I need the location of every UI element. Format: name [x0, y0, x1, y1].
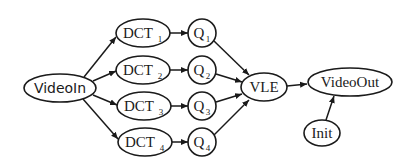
node-videoout: VideoOut [308, 68, 392, 96]
node-label: DCT [123, 25, 153, 41]
edge-init-videoout [326, 96, 334, 120]
node-label: DCT [125, 134, 155, 150]
node-subscript: 4 [160, 143, 165, 153]
node-label: Q [194, 25, 205, 41]
edge-q1-vle [214, 41, 249, 75]
edges [83, 33, 334, 142]
node-subscript: 2 [206, 71, 211, 81]
node-dct1: DCT 1 [116, 19, 170, 47]
edge-q4-vle [214, 100, 249, 135]
node-q2: Q 2 [188, 56, 216, 84]
node-label: VLE [249, 79, 278, 95]
node-subscript: 1 [206, 34, 211, 44]
node-subscript: 3 [206, 107, 211, 117]
node-subscript: 4 [206, 143, 211, 153]
node-dct4: DCT 4 [118, 128, 172, 156]
node-label: Q [194, 98, 205, 114]
edge-videoin-dct4 [83, 99, 118, 139]
node-subscript: 1 [158, 34, 163, 44]
diagram-canvas: VideoIn DCT 1 DCT 2 DCT 3 DCT 4 Q 1 Q 2 … [0, 0, 416, 165]
node-init: Init [304, 120, 340, 146]
edge-videoin-dct2 [93, 71, 116, 81]
node-label: VideoIn [34, 80, 86, 96]
edge-vle-videoout [287, 84, 307, 86]
edge-q3-vle [216, 94, 242, 102]
node-label: DCT [124, 98, 154, 114]
node-vle: VLE [241, 73, 287, 101]
node-label: DCT [123, 62, 153, 78]
node-q3: Q 3 [188, 92, 216, 120]
node-label: Init [312, 125, 334, 141]
node-subscript: 3 [159, 107, 164, 117]
node-q4: Q 4 [188, 128, 216, 156]
node-q1: Q 1 [188, 19, 216, 47]
node-subscript: 2 [158, 71, 163, 81]
edge-videoin-dct3 [93, 95, 117, 105]
dataflow-diagram: VideoIn DCT 1 DCT 2 DCT 3 DCT 4 Q 1 Q 2 … [0, 0, 416, 165]
edge-q2-vle [216, 74, 242, 82]
node-videoin: VideoIn [24, 74, 96, 102]
edge-videoin-dct1 [84, 37, 116, 77]
node-label: VideoOut [321, 74, 380, 90]
node-label: Q [194, 134, 205, 150]
node-dct3: DCT 3 [117, 92, 171, 120]
node-dct2: DCT 2 [116, 56, 170, 84]
node-label: Q [194, 62, 205, 78]
